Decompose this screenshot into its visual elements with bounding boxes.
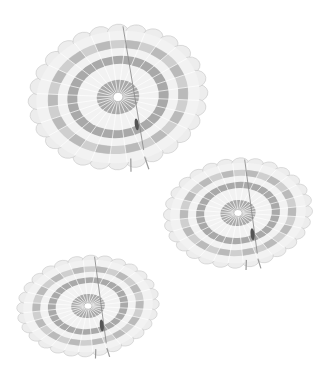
parachute-middle: [158, 151, 318, 278]
parachutes-illustration: [0, 0, 328, 390]
photo-scene: [0, 0, 328, 390]
parachute-top: [19, 13, 217, 185]
parachute-bottom: [12, 249, 164, 367]
